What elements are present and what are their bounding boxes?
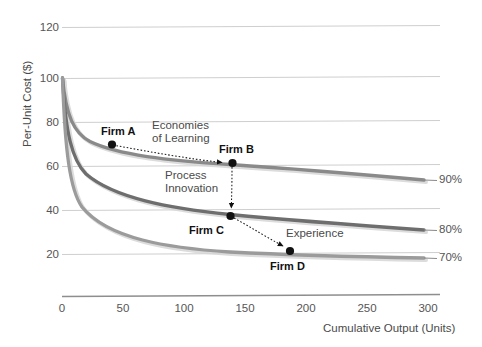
annotation-process-line2: Innovation bbox=[165, 182, 218, 195]
marker-firm-c bbox=[226, 212, 234, 220]
arrow-process-innovation bbox=[231, 167, 232, 208]
x-tick-0: 0 bbox=[42, 302, 82, 314]
x-tick-150: 150 bbox=[225, 302, 265, 314]
x-tick-250: 250 bbox=[347, 302, 387, 314]
y-tick-20: 20 bbox=[25, 248, 59, 260]
annotation-experience: Experience bbox=[286, 227, 344, 240]
x-axis-line bbox=[62, 295, 440, 297]
marker-firm-d bbox=[286, 247, 294, 255]
x-tick-100: 100 bbox=[164, 302, 204, 314]
y-tick-40: 40 bbox=[25, 204, 59, 216]
stub-90 bbox=[424, 180, 437, 181]
y-tick-120: 120 bbox=[25, 21, 59, 33]
annotation-process-innovation: Process Innovation bbox=[165, 169, 218, 195]
annotation-economies-of-learning: Economies of Learning bbox=[152, 119, 210, 145]
x-axis-title: Cumulative Output (Units) bbox=[323, 322, 455, 334]
stub-70 bbox=[424, 258, 437, 259]
label-firm-c: Firm C bbox=[189, 224, 224, 236]
chart-plot-area bbox=[0, 0, 482, 347]
x-tick-300: 300 bbox=[408, 302, 448, 314]
marker-firm-b bbox=[228, 159, 236, 167]
curve-end-stubs bbox=[424, 180, 437, 259]
x-tick-50: 50 bbox=[103, 302, 143, 314]
learning-curve-chart: Per-Unit Cost ($) 120 100 80 60 40 20 0 … bbox=[0, 0, 482, 347]
annotation-economies-line2: of Learning bbox=[152, 132, 210, 145]
y-tick-80: 80 bbox=[25, 116, 59, 128]
annotation-process-line1: Process bbox=[165, 169, 218, 182]
gridline-100 bbox=[62, 77, 440, 79]
y-tick-100: 100 bbox=[25, 72, 59, 84]
curve-label-80: 80% bbox=[439, 223, 462, 235]
curve-label-70: 70% bbox=[439, 251, 462, 263]
gridline-80 bbox=[62, 121, 440, 123]
gridline-40 bbox=[62, 209, 440, 211]
label-firm-b: Firm B bbox=[219, 143, 254, 155]
curve-label-90: 90% bbox=[439, 173, 462, 185]
y-tick-60: 60 bbox=[25, 160, 59, 172]
gridline-120 bbox=[62, 26, 440, 28]
x-tick-200: 200 bbox=[286, 302, 326, 314]
label-firm-a: Firm A bbox=[101, 125, 135, 137]
label-firm-d: Firm D bbox=[270, 260, 305, 272]
stub-80 bbox=[424, 230, 437, 231]
marker-firm-a bbox=[108, 140, 116, 148]
annotation-economies-line1: Economies bbox=[152, 119, 210, 132]
